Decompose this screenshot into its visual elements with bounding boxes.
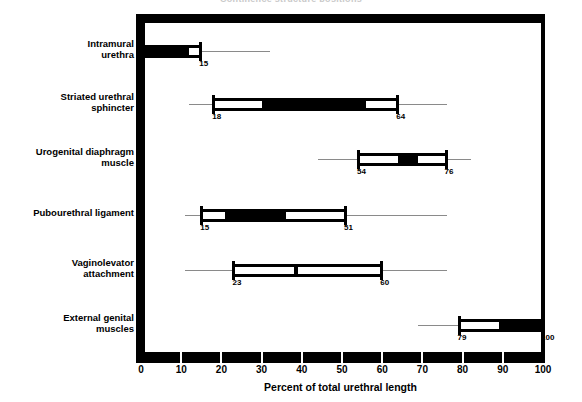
x-axis-tick-gap: [341, 352, 343, 363]
x-tick-label-80: 80: [457, 364, 468, 375]
x-tick-label-40: 40: [296, 364, 307, 375]
box-row: 015: [141, 40, 543, 66]
chart-figure: Continence structure positions Intramura…: [0, 0, 582, 402]
x-tick-label-20: 20: [216, 364, 227, 375]
plot-area: 015186454761551236079100: [141, 14, 543, 352]
y-axis-label-4: Pubourethral ligament: [0, 207, 134, 219]
x-tick-label-30: 30: [256, 364, 267, 375]
y-axis-label-6: External genital muscles: [0, 312, 134, 335]
box-row: 1864: [141, 93, 543, 119]
x-axis-tick-labels: 0102030405060708090100: [141, 364, 543, 378]
box-outline: [233, 264, 382, 277]
box-row: 2360: [141, 259, 543, 285]
y-axis-label-1: Intramural urethra: [0, 38, 134, 61]
y-axis-label-5: Vaginolevator attachment: [0, 257, 134, 280]
box: [201, 209, 346, 222]
y-axis-label-3: Urogenital diaphragm muscle: [0, 146, 134, 169]
x-tick-label-0: 0: [138, 364, 144, 375]
bar-value-label-end: 51: [344, 223, 353, 233]
bar-value-label-start: 79: [458, 333, 467, 343]
box-median-fill: [225, 212, 285, 219]
x-axis-tick-gap: [180, 352, 182, 363]
x-tick-label-60: 60: [377, 364, 388, 375]
x-axis-tick-gap: [462, 352, 464, 363]
y-axis-label-2: Striated urethral sphincter: [0, 91, 134, 114]
bar-value-label-end: 76: [445, 167, 454, 177]
x-tick-label-90: 90: [497, 364, 508, 375]
box-median-fill: [262, 101, 367, 108]
box: [141, 45, 201, 58]
bar-value-label-start: 18: [212, 112, 221, 122]
box: [233, 264, 382, 277]
bar-value-label-end: 60: [380, 278, 389, 288]
x-axis-tick-gap: [261, 352, 263, 363]
x-tick-label-50: 50: [336, 364, 347, 375]
bar-value-label-end: 64: [396, 112, 405, 122]
bar-value-label-start: 15: [200, 223, 209, 233]
x-axis-title: Percent of total urethral length: [136, 381, 545, 393]
x-tick-label-70: 70: [417, 364, 428, 375]
x-axis-tick-gap: [502, 352, 504, 363]
x-axis: [136, 352, 545, 363]
box: [459, 319, 543, 332]
x-tick-label-100: 100: [535, 364, 552, 375]
box: [213, 98, 398, 111]
box-median-fill: [141, 48, 189, 55]
x-axis-tick-gap: [421, 352, 423, 363]
x-axis-tick-gap: [381, 352, 383, 363]
box-row: 5476: [141, 148, 543, 174]
box-row: 79100: [141, 314, 543, 340]
x-tick-label-10: 10: [176, 364, 187, 375]
y-axis-category-labels: Intramural urethraStriated urethral sphi…: [0, 14, 134, 352]
box-median-fill: [398, 156, 418, 163]
bar-value-label-end: 100: [541, 333, 554, 343]
x-axis-tick-gap: [301, 352, 303, 363]
bar-value-label-end: 15: [199, 59, 208, 69]
box-median-fill: [294, 267, 298, 274]
bar-value-label-start: 23: [232, 278, 241, 288]
box-median-fill: [499, 322, 543, 329]
box: [358, 153, 446, 166]
x-axis-tick-gap: [220, 352, 222, 363]
bar-value-label-start: 54: [357, 167, 366, 177]
box-row: 1551: [141, 204, 543, 230]
bar-value-label-start: 0: [140, 59, 144, 69]
chart-title: Continence structure positions: [0, 0, 582, 2]
